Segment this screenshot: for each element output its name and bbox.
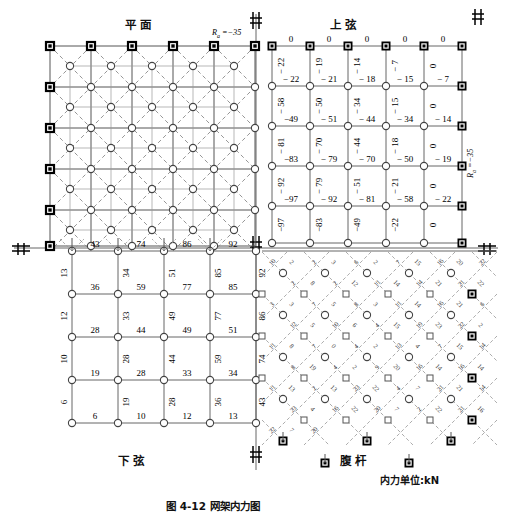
plan-view-group [46,42,259,251]
uc-h-value-r3c0: −83 [284,154,298,164]
uc-h-value-r2c1: − 51 [321,114,337,124]
lc-v-value-r3c3: 36 [213,397,223,406]
uc-h-value-r2c0: −49 [284,114,298,124]
uc-v-value-r4c4: 0 [428,222,438,227]
uc-h-value-r4c3: − 58 [397,194,413,204]
uc-h-value-r2c3: − 34 [397,114,413,124]
lc-v-value-r3c1: 19 [121,397,131,406]
uc-v-value-r2c3: − 18 [390,138,400,154]
support-reaction-right-label: Ra =−35 [466,149,477,178]
uc-h-value-r0c1: 0 [327,34,332,44]
lc-v-value-r1c0: 12 [59,311,69,320]
lc-v-value-r1c1: 33 [121,311,131,320]
uc-h-value-r3c1: − 79 [321,154,337,164]
lc-v-value-r3c2: 28 [167,397,177,406]
lc-v-value-r1c2: 49 [167,311,177,320]
lc-v-value-r2c0: 10 [59,354,69,363]
uc-v-value-r3c3: − 21 [390,178,400,194]
uc-h-value-r2c2: − 44 [359,114,375,124]
quadrant-title-upper-chord: 上 弦 [330,16,356,32]
lc-h-value-r0c0: 43 [91,239,100,249]
uc-v-value-r2c0: − 81 [276,138,286,154]
uc-h-value-r2c4: − 14 [435,114,451,124]
uc-v-value-r4c1: −83 [314,217,324,231]
lc-h-value-r3c0: 19 [91,368,100,378]
uc-v-value-r1c0: − 58 [276,98,286,114]
uc-v-value-r2c4: 0 [428,144,438,149]
lc-v-value-r0c4: 92 [257,268,267,277]
uc-h-value-r4c0: −97 [284,194,298,204]
lc-h-value-r4c1: 10 [137,411,146,421]
lc-h-value-r4c0: 6 [93,411,98,421]
lc-v-value-r1c4: 86 [257,311,267,320]
lc-v-value-r2c1: 28 [121,354,131,363]
quadrant-title-plan: 平 面 [125,16,151,32]
force-unit-note: 内力单位:kN [380,472,439,487]
quadrant-title-lower-chord: 下 弦 [118,452,144,468]
uc-h-value-r1c2: − 18 [359,74,375,84]
lc-v-value-r0c2: 51 [167,268,177,277]
uc-h-value-r3c3: − 50 [397,154,413,164]
uc-h-value-r0c3: 0 [403,34,408,44]
lc-h-value-r0c3: 92 [229,239,238,249]
uc-v-value-r2c2: − 44 [352,138,362,154]
lc-h-value-r2c1: 44 [137,325,146,335]
lc-h-value-r3c2: 33 [183,368,192,378]
lc-h-value-r2c2: 49 [183,325,192,335]
uc-v-value-r0c0: − 22 [276,58,286,74]
lc-v-value-r2c2: 44 [167,354,177,363]
lc-h-value-r4c2: 12 [183,411,192,421]
lc-h-value-r4c3: 13 [229,411,238,421]
uc-v-value-r1c1: − 50 [314,98,324,114]
uc-v-value-r3c1: − 79 [314,178,324,194]
uc-h-value-r4c4: − 22 [435,194,451,204]
lc-h-value-r0c1: 74 [137,239,146,249]
quadrant-title-web: 腹 杆 [340,452,366,468]
uc-v-value-r3c4: 0 [428,184,438,189]
lc-v-value-r1c3: 77 [213,311,223,320]
uc-h-value-r4c2: − 81 [359,194,375,204]
lc-h-value-r3c1: 28 [137,368,146,378]
uc-h-value-r1c1: − 21 [321,74,337,84]
lc-h-value-r0c2: 86 [183,239,192,249]
uc-h-value-r4c1: − 92 [321,194,337,204]
uc-h-value-r3c4: − 19 [435,154,451,164]
lc-h-value-r1c0: 36 [91,282,100,292]
uc-h-value-r0c2: 0 [365,34,370,44]
uc-h-value-r1c4: − 7 [437,74,449,84]
uc-v-value-r0c2: − 14 [352,58,362,74]
uc-v-value-r2c1: − 70 [314,138,324,154]
uc-v-value-r3c2: − 51 [352,178,362,194]
lc-v-value-r0c3: 85 [213,268,223,277]
uc-v-value-r4c2: −49 [352,217,362,231]
lc-v-value-r2c4: 74 [257,354,267,363]
lc-h-value-r2c3: 51 [229,325,238,335]
uc-v-value-r1c4: 0 [428,104,438,109]
uc-v-value-r0c3: − 7 [390,60,400,72]
lc-v-value-r2c3: 59 [213,354,223,363]
lc-h-value-r1c2: 77 [183,282,192,292]
lc-h-value-r2c0: 28 [91,325,100,335]
uc-h-value-r1c3: − 15 [397,74,413,84]
lc-v-value-r3c4: 43 [257,397,267,406]
lc-v-value-r0c1: 34 [121,268,131,277]
uc-v-value-r4c3: −22 [390,217,400,231]
uc-h-value-r1c0: − 22 [283,74,299,84]
figure-caption: 图 4-12 网架内力图 [166,498,260,513]
uc-v-value-r1c3: − 15 [390,98,400,114]
uc-v-value-r4c0: −97 [276,217,286,231]
lc-h-value-r1c3: 85 [229,282,238,292]
lc-h-value-r1c1: 59 [137,282,146,292]
support-reaction-top-label: Ra =−35 [212,28,241,39]
uc-v-value-r1c2: − 34 [352,98,362,114]
uc-v-value-r0c1: − 19 [314,58,324,74]
lc-v-value-r0c0: 13 [59,268,69,277]
uc-v-value-r0c4: 0 [428,64,438,69]
uc-h-value-r0c4: 0 [441,34,446,44]
lc-h-value-r3c3: 34 [229,368,238,378]
uc-h-value-r3c2: − 70 [359,154,375,164]
uc-v-value-r3c0: − 92 [276,178,286,194]
lc-v-value-r3c0: 6 [59,399,69,404]
